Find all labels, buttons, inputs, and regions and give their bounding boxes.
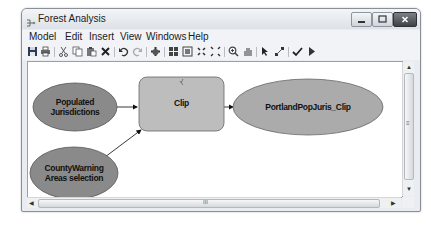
print-icon[interactable] bbox=[40, 46, 51, 57]
connect-icon[interactable] bbox=[274, 46, 285, 57]
zoom-out-fixed-icon[interactable] bbox=[210, 46, 221, 57]
copy-icon[interactable] bbox=[72, 46, 83, 57]
model-builder-window: Forest Analysis Model Edit Insert View W… bbox=[21, 8, 421, 212]
add-data-icon[interactable] bbox=[150, 46, 161, 57]
title-bar[interactable]: Forest Analysis bbox=[22, 9, 420, 29]
vertical-scroll-thumb[interactable]: ≡ bbox=[404, 73, 414, 180]
save-icon[interactable] bbox=[27, 46, 38, 57]
scroll-corner bbox=[402, 197, 414, 208]
delete-icon[interactable] bbox=[100, 46, 111, 57]
vertical-scrollbar[interactable]: ▲ ≡ ▼ bbox=[402, 62, 414, 196]
menu-insert[interactable]: Insert bbox=[89, 31, 114, 42]
grip-icon: ≡ bbox=[406, 120, 410, 126]
validate-icon[interactable] bbox=[292, 46, 303, 57]
maximize-button[interactable] bbox=[372, 12, 393, 27]
minimize-icon bbox=[352, 13, 371, 26]
scroll-down-arrow-icon[interactable]: ▼ bbox=[406, 186, 412, 192]
zoom-icon[interactable] bbox=[228, 46, 239, 57]
connector-countywarning-to-clip bbox=[105, 130, 141, 157]
scroll-left-arrow-icon[interactable]: ◀ bbox=[29, 200, 34, 206]
horizontal-scroll-thumb[interactable]: III bbox=[38, 199, 380, 208]
menu-help[interactable]: Help bbox=[188, 31, 209, 42]
zoom-in-fixed-icon[interactable] bbox=[196, 46, 207, 57]
full-extent-icon[interactable] bbox=[182, 46, 193, 57]
close-icon bbox=[394, 13, 416, 26]
toolbar bbox=[22, 44, 420, 60]
node-label-clip[interactable]: Clip bbox=[139, 98, 224, 108]
cut-icon[interactable] bbox=[58, 46, 69, 57]
menu-view[interactable]: View bbox=[120, 31, 142, 42]
run-icon[interactable] bbox=[306, 46, 317, 57]
maximize-icon bbox=[373, 13, 392, 26]
minimize-button[interactable] bbox=[351, 12, 372, 27]
close-button[interactable] bbox=[393, 12, 417, 27]
pan-icon[interactable] bbox=[242, 46, 253, 57]
paste-icon[interactable] bbox=[86, 46, 97, 57]
auto-layout-icon[interactable] bbox=[168, 46, 179, 57]
model-icon bbox=[26, 14, 36, 24]
menu-edit[interactable]: Edit bbox=[65, 31, 82, 42]
node-label-output[interactable]: PortlandPopJuris_Clip bbox=[233, 102, 383, 112]
undo-icon[interactable] bbox=[118, 46, 129, 57]
menu-bar: Model Edit Insert View Windows Help bbox=[22, 30, 420, 44]
window-title: Forest Analysis bbox=[38, 13, 106, 24]
horizontal-scrollbar[interactable]: ◀ III ▶ bbox=[27, 197, 401, 208]
model-canvas[interactable]: Populated Jurisdictions CountyWarning Ar… bbox=[27, 61, 403, 198]
menu-model[interactable]: Model bbox=[29, 31, 56, 42]
grip-icon: III bbox=[203, 199, 208, 205]
select-icon[interactable] bbox=[260, 46, 271, 57]
redo-icon[interactable] bbox=[132, 46, 143, 57]
node-label-populated[interactable]: Populated Jurisdictions bbox=[40, 97, 110, 117]
scroll-up-arrow-icon[interactable]: ▲ bbox=[406, 64, 412, 70]
scroll-right-arrow-icon[interactable]: ▶ bbox=[391, 200, 396, 206]
menu-windows[interactable]: Windows bbox=[146, 31, 187, 42]
node-label-countywarning[interactable]: CountyWarning Areas selection bbox=[34, 163, 114, 183]
